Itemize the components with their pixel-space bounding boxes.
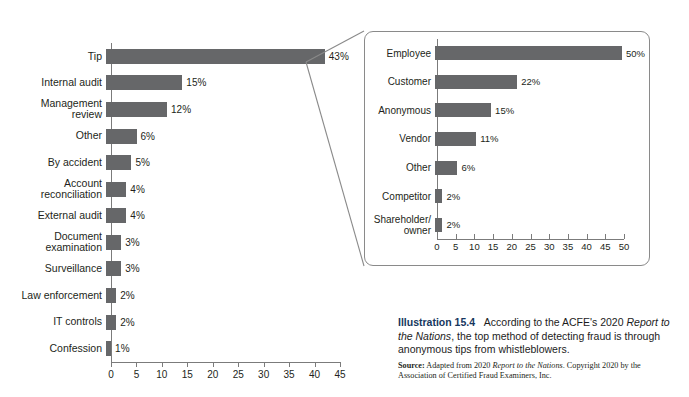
inset-chart-category-label: Employee: [364, 48, 435, 59]
main-chart-bar-wrapper: 43%: [106, 43, 360, 70]
inset-chart-row: Shareholder/ owner2%: [364, 210, 650, 239]
inset-chart-tick-mark: [549, 234, 550, 239]
main-chart-category-label: Management review: [0, 98, 106, 121]
main-chart-bar-wrapper: 4%: [106, 176, 360, 203]
main-chart-value-label: 2%: [120, 290, 134, 301]
inset-bar-chart: Employee50%Customer22%Anonymous15%Vendor…: [364, 31, 650, 266]
inset-chart-tick-mark: [474, 234, 475, 239]
main-chart-bar-wrapper: 3%: [106, 229, 360, 256]
caption-text-part1: According to the ACFE's 2020: [484, 316, 627, 328]
main-chart-value-label: 4%: [130, 184, 144, 195]
inset-chart-bar: [435, 75, 517, 89]
main-chart-value-label: 1%: [115, 343, 129, 354]
inset-chart-tick-mark: [512, 234, 513, 239]
main-chart-tick-label: 10: [156, 369, 167, 380]
inset-chart-category-label: Vendor: [364, 133, 435, 144]
main-chart-category-label: Account reconciliation: [0, 178, 106, 201]
main-chart-tick-label: 0: [108, 369, 114, 380]
inset-chart-bar-wrapper: 2%: [435, 182, 650, 211]
main-chart-value-label: 6%: [141, 131, 155, 142]
inset-chart-tick-mark: [624, 234, 625, 239]
inset-chart-category-label: Other: [364, 162, 435, 173]
main-chart-bar: [106, 315, 116, 330]
main-chart-bar: [106, 182, 126, 197]
inset-chart-bar-wrapper: 11%: [435, 125, 650, 154]
main-chart-bar-wrapper: 15%: [106, 70, 360, 97]
main-chart-bar-wrapper: 2%: [106, 309, 360, 336]
main-chart-value-label: 3%: [125, 237, 139, 248]
inset-chart-bar: [435, 46, 622, 60]
main-chart-bar: [106, 155, 131, 170]
inset-chart-tick-mark: [587, 234, 588, 239]
inset-chart-tick-mark: [493, 234, 494, 239]
main-chart-tick-label: 45: [334, 369, 345, 380]
main-chart-row: Management review12%: [0, 96, 360, 123]
main-bar-chart: Tip43%Internal audit15%Management review…: [0, 0, 360, 397]
main-chart-tick-label: 40: [309, 369, 320, 380]
inset-chart-tick-mark: [437, 234, 438, 239]
main-chart-value-label: 15%: [186, 77, 206, 88]
inset-chart-category-label: Competitor: [364, 191, 435, 202]
inset-chart-tick-mark: [531, 234, 532, 239]
main-chart-category-label: Internal audit: [0, 77, 106, 89]
illustration-number: Illustration 15.4: [398, 316, 475, 328]
main-chart-category-label: Surveillance: [0, 263, 106, 275]
main-chart-tick-mark: [187, 362, 188, 367]
main-chart-bar: [106, 208, 126, 223]
inset-chart-tick-label: 25: [525, 241, 536, 252]
inset-chart-bar: [435, 161, 457, 175]
inset-chart-bar: [435, 132, 476, 146]
source-italic-report-title: Report to the Nations: [492, 361, 562, 370]
main-chart-row: Other6%: [0, 123, 360, 150]
main-chart-value-label: 3%: [125, 263, 139, 274]
inset-chart-value-label: 22%: [521, 76, 540, 87]
inset-chart-category-label: Anonymous: [364, 105, 435, 116]
main-chart-row: Confession1%: [0, 335, 360, 362]
main-chart-bar-wrapper: 3%: [106, 256, 360, 283]
inset-chart-tick-label: 50: [619, 241, 630, 252]
source-label: Source:: [398, 361, 425, 370]
inset-chart-value-label: 11%: [480, 133, 498, 144]
main-chart-category-label: By accident: [0, 157, 106, 169]
source-text-part1: Adapted from 2020: [425, 361, 493, 370]
main-chart-tick-mark: [340, 362, 341, 367]
main-chart-row: Surveillance3%: [0, 256, 360, 283]
inset-chart-row: Customer22%: [364, 68, 650, 97]
inset-chart-bar: [435, 218, 442, 232]
inset-chart-row: Anonymous15%: [364, 96, 650, 125]
main-chart-row: IT controls2%: [0, 309, 360, 336]
caption-source-text: Source: Adapted from 2020 Report to the …: [398, 361, 674, 381]
main-chart-bar-wrapper: 12%: [106, 96, 360, 123]
main-chart-category-label: External audit: [0, 210, 106, 222]
main-chart-bar: [106, 49, 325, 64]
main-chart-tick-label: 20: [207, 369, 218, 380]
main-chart-tick-mark: [111, 362, 112, 367]
inset-chart-tick-label: 0: [434, 241, 439, 252]
main-chart-tick-label: 25: [233, 369, 244, 380]
main-chart-bar: [106, 129, 137, 144]
inset-chart-bar: [435, 189, 442, 203]
inset-chart-tick-label: 40: [581, 241, 592, 252]
main-chart-value-label: 2%: [120, 317, 134, 328]
inset-chart-tick-mark: [568, 234, 569, 239]
inset-chart-category-label: Customer: [364, 76, 435, 87]
inset-chart-row: Vendor11%: [364, 125, 650, 154]
inset-chart-value-label: 15%: [495, 105, 514, 116]
main-chart-category-label: Law enforcement: [0, 290, 106, 302]
main-chart-value-label: 12%: [171, 104, 191, 115]
main-chart-row: Account reconciliation4%: [0, 176, 360, 203]
inset-chart-bar-wrapper: 50%: [435, 39, 650, 68]
main-chart-value-label: 43%: [329, 51, 349, 62]
main-chart-bar-wrapper: 5%: [106, 149, 360, 176]
inset-chart-bar: [435, 103, 491, 117]
main-chart-tick-label: 5: [134, 369, 140, 380]
inset-chart-value-label: 50%: [626, 48, 645, 59]
main-chart-row: Tip43%: [0, 43, 360, 70]
main-chart-bar: [106, 341, 111, 356]
main-chart-tick-mark: [162, 362, 163, 367]
main-chart-bar: [106, 102, 167, 117]
main-chart-row: Document examination3%: [0, 229, 360, 256]
main-chart-row: By accident5%: [0, 149, 360, 176]
main-chart-x-axis-line: [111, 362, 340, 363]
inset-chart-tick-mark: [605, 234, 606, 239]
